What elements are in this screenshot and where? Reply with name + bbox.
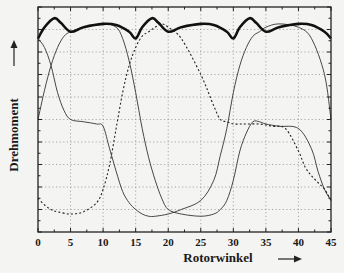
series-strang-2: [38, 24, 331, 217]
y-axis-label: Drehmoment: [6, 98, 21, 172]
x-axis-label: Rotorwinkel: [183, 250, 253, 265]
series-strang-3: [38, 24, 331, 214]
x-tick-label: 40: [293, 236, 305, 248]
x-tick-label: 35: [260, 236, 272, 248]
x-tick-label: 45: [326, 236, 338, 248]
torque-chart: 051015202530354045 Rotorwinkel Drehmomen…: [0, 0, 344, 273]
x-tick-label: 20: [163, 236, 175, 248]
up-arrow-icon: [11, 40, 18, 66]
x-tick-label: 10: [98, 236, 110, 248]
x-tick-label: 5: [68, 236, 74, 248]
x-tick-label: 15: [130, 236, 142, 248]
x-tick-label: 25: [195, 236, 207, 248]
series-gesamtmoment: [38, 18, 331, 38]
right-arrow-icon: [278, 256, 302, 263]
x-tick-label: 0: [35, 236, 41, 248]
grid-lines: [38, 7, 331, 232]
x-tick-labels: 051015202530354045: [35, 236, 337, 248]
x-tick-label: 30: [228, 236, 240, 248]
series-strang-1: [38, 24, 331, 216]
